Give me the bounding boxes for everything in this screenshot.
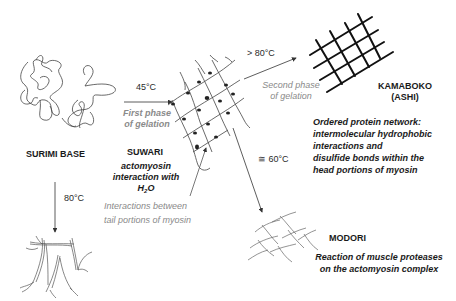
first-phase-label: First phase of gelation <box>120 108 174 130</box>
arrow-second-phase <box>244 58 296 79</box>
tail-line1: Interactions between <box>104 201 191 212</box>
suwari-description: actomyosin interaction with H2O <box>110 161 182 197</box>
modori-description: Reaction of muscle proteases on the acto… <box>314 251 444 275</box>
kamaboko-label: KAMABOKO (ASHI) <box>372 81 438 103</box>
modori-label: MODORI <box>329 233 366 244</box>
arrow-tail-interactions <box>190 148 206 196</box>
temp-approx-60c: ≅ 60°C <box>258 154 289 165</box>
surimi-coil-icon <box>21 56 116 128</box>
modori-desc-line1: Reaction of muscle proteases <box>314 251 444 263</box>
kamaboko-description: Ordered protein network: intermolecular … <box>313 116 432 176</box>
suwari-desc-line2: interaction with <box>110 172 182 183</box>
tail-interactions-label: Interactions between tail portions of my… <box>104 201 191 226</box>
kamaboko-desc-line1: Ordered protein network: <box>313 116 432 128</box>
temp-45c: 45°C <box>136 82 156 93</box>
modori-network-icon <box>248 212 318 262</box>
temp-gt-80c: > 80°C <box>247 48 275 59</box>
kamaboko-desc-line3: interactions and <box>313 140 432 152</box>
suwari-desc-h2o: H2O <box>110 183 182 197</box>
kamaboko-desc-line2: intermolecular hydrophobic <box>313 128 432 140</box>
suwari-desc-line1: actomyosin <box>110 161 182 172</box>
first-phase-line2: of gelation <box>120 119 174 130</box>
first-phase-line1: First phase <box>120 108 174 119</box>
kamaboko-line2: (ASHI) <box>372 92 438 103</box>
fibrous-aggregate-icon <box>20 236 92 298</box>
temp-80c: 80°C <box>64 193 84 204</box>
arrow-to-modori <box>233 128 262 212</box>
kamaboko-desc-line4: disulfide bonds within the <box>313 152 432 164</box>
kamaboko-line1: KAMABOKO <box>372 81 438 92</box>
surimi-base-label: SURIMI BASE <box>26 149 85 160</box>
second-phase-line2: of gelation <box>258 91 324 102</box>
modori-desc-line2: on the actomyosin complex <box>314 263 444 275</box>
tail-line2: tail portions of myosin <box>104 215 191 226</box>
second-phase-label: Second phase of gelation <box>258 80 324 102</box>
second-phase-line1: Second phase <box>258 80 324 91</box>
suwari-label: SUWARI <box>112 147 178 158</box>
kamaboko-desc-line5: head portions of myosin <box>313 164 432 176</box>
